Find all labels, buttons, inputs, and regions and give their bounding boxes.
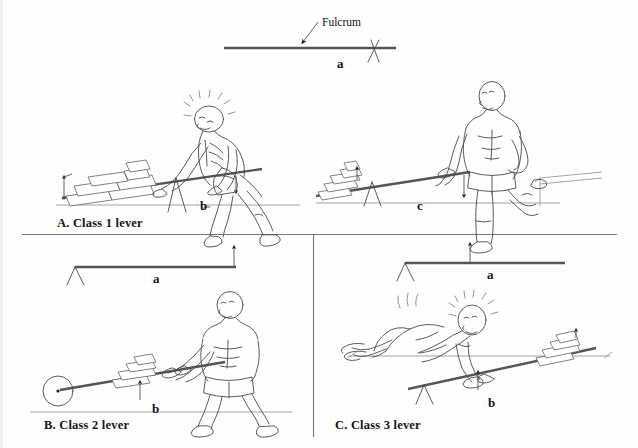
panel-c-caption: C. Class 3 lever: [335, 419, 421, 432]
panel-a-right-letter-c: c: [417, 199, 423, 212]
panel-b-schematic: [67, 247, 236, 285]
panel-a-caption: A. Class 1 lever: [57, 217, 143, 230]
panel-b-caption: B. Class 2 lever: [44, 419, 129, 432]
top-schematic-lever: [224, 22, 396, 62]
brick-stack-c: [318, 161, 362, 200]
panel-c-schematic: [397, 244, 565, 281]
panel-dividers: [22, 235, 617, 438]
panel-b-letter-a: a: [153, 272, 160, 285]
top-bar-letter-a: a: [337, 57, 344, 70]
brick-stack-a: [66, 160, 156, 206]
brick-stack-b: [112, 354, 156, 388]
panel-b-class2-drawing: [30, 247, 292, 437]
panel-b-letter-b: b: [152, 402, 159, 415]
figure-man-class2: [162, 292, 278, 438]
brick-stack-c3: [536, 331, 580, 366]
lever-classes-figure: .ink { fill:none; stroke:#4a4a4a; stroke…: [0, 0, 638, 448]
panel-a-letter-b: b: [200, 199, 207, 212]
panel-c-class3-drawing: [341, 244, 612, 404]
panel-c-letter-b: b: [488, 396, 495, 409]
figure-man-class1-right: [436, 82, 547, 254]
panel-a-right-drawing: [316, 82, 602, 254]
panel-c-letter-a: a: [487, 268, 494, 281]
fulcrum-label: Fulcrum: [322, 17, 361, 29]
